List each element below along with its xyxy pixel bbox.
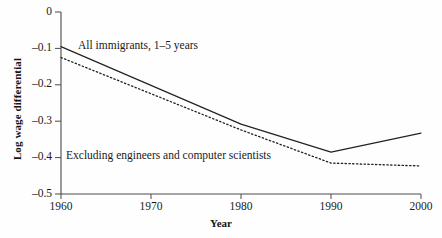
series-label-all-immigrants: All immigrants, 1–5 years	[78, 39, 198, 51]
x-tick-label-1990: 1990	[301, 200, 361, 212]
series-label-excluding-engineers: Excluding engineers and computer scienti…	[66, 149, 271, 161]
y-tick-label-5: –0.5	[10, 187, 52, 199]
x-tick-label-1970: 1970	[121, 200, 181, 212]
chart-figure: 0 –0.1 –0.2 –0.3 –0.4 –0.5 1960 1970 198…	[0, 0, 442, 238]
x-tick-label-1960: 1960	[31, 200, 91, 212]
x-axis-title: Year	[0, 217, 442, 229]
y-tick-label-0: 0	[10, 5, 52, 17]
y-axis-ticks	[55, 12, 61, 194]
x-tick-label-1980: 1980	[211, 200, 271, 212]
x-tick-label-2000: 2000	[391, 200, 442, 212]
series-line-all-immigrants	[61, 47, 421, 153]
x-axis-ticks	[61, 194, 421, 199]
y-axis-title: Log wage differential	[11, 49, 23, 169]
